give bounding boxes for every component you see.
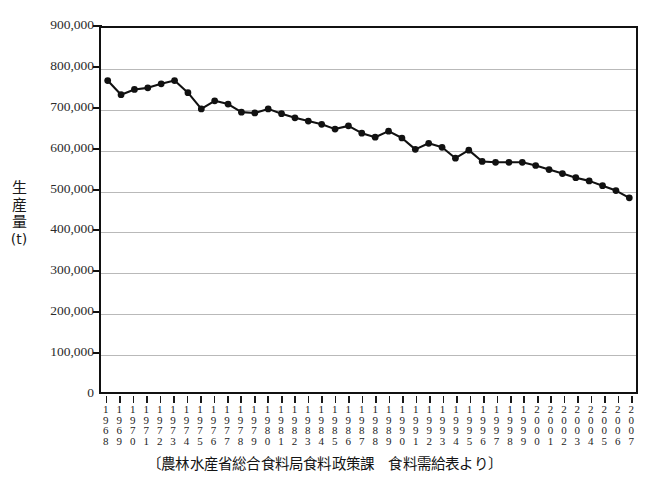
data-point-marker [519,159,526,166]
series-line [101,28,636,392]
x-axis-tick-label: 1998 [503,404,517,446]
x-axis-tick-mark [631,396,633,403]
x-axis-tick-label: 2006 [611,404,625,446]
x-axis-tick-mark [200,396,202,403]
x-axis-tick-mark [470,396,472,403]
x-axis-tick-label: 1997 [490,404,504,446]
x-axis-tick-mark [119,396,121,403]
data-point-marker [506,159,513,166]
x-axis-tick-mark [618,396,620,403]
data-point-marker [572,174,579,181]
x-axis-tick-label: 1992 [422,404,436,446]
data-point-marker [385,128,392,135]
data-point-marker [452,155,459,162]
data-point-marker [332,126,339,133]
y-axis-tick-label: 800,000 [22,58,94,74]
x-axis-tick-mark [362,396,364,403]
x-axis-tick-mark [389,396,391,403]
x-axis-tick-label: 1989 [382,404,396,446]
x-axis-tick-mark [510,396,512,403]
x-axis-tick-label: 2005 [597,404,611,446]
chart-page: 生 産 量 (t) 900,000800,000700,000600,00050… [0,0,649,478]
data-point-marker [626,195,633,202]
data-point-marker [265,106,272,113]
x-axis-tick-label: 1984 [314,404,328,446]
x-axis-tick-label: 1996 [476,404,490,446]
x-axis-tick-label: 1978 [233,404,247,446]
x-axis-tick-mark [550,396,552,403]
x-axis-tick-label: 1991 [409,404,423,446]
x-axis-tick-mark [523,396,525,403]
x-axis-tick-label: 1988 [368,404,382,446]
data-point-marker [372,134,379,141]
x-axis-tick-mark [375,396,377,403]
x-axis-tick-mark [308,396,310,403]
x-axis-tick-mark [402,396,404,403]
data-point-marker [532,162,539,169]
x-axis-tick-mark [591,396,593,403]
data-point-marker [171,77,178,84]
x-axis-tick-label: 2004 [584,404,598,446]
x-axis-tick-label: 2002 [557,404,571,446]
y-axis-tick-label: 400,000 [22,221,94,237]
x-axis-tick-label: 1995 [463,404,477,446]
data-point-marker [439,144,446,151]
data-point-marker [292,114,299,121]
x-axis-tick-label: 1973 [166,404,180,446]
x-axis-tick-mark [483,396,485,403]
data-point-marker [278,110,285,117]
x-axis-tick-label: 1968 [99,404,113,446]
data-point-marker [599,182,606,189]
x-axis-tick-mark [564,396,566,403]
data-point-marker [412,146,419,153]
data-point-marker [492,159,499,166]
x-axis-tick-label: 2007 [624,404,638,446]
x-axis-tick-label: 1987 [355,404,369,446]
x-axis-tick-mark [133,396,135,403]
x-axis-tick-label: 1971 [139,404,153,446]
data-point-marker [345,123,352,130]
data-point-marker [425,140,432,147]
y-axis-tick-label: 700,000 [22,99,94,115]
data-point-marker [211,97,218,104]
x-axis-tick-label: 1980 [260,404,274,446]
x-axis-tick-mark [227,396,229,403]
x-axis-tick-mark [240,396,242,403]
x-axis-tick-mark [348,396,350,403]
x-axis-tick-mark [281,396,283,403]
x-axis-tick-mark [537,396,539,403]
source-caption: 〔農林水産省総合食料局食料政策課 食料需給表より〕 [0,452,649,473]
x-axis-tick-mark [456,396,458,403]
x-axis-tick-mark [214,396,216,403]
x-axis-tick-label: 1990 [395,404,409,446]
x-axis-tick-mark [294,396,296,403]
x-axis-tick-mark [416,396,418,403]
data-point-marker [305,118,312,125]
x-axis-tick-label: 1970 [126,404,140,446]
x-axis-tick-label: 2000 [530,404,544,446]
data-point-marker [399,135,406,142]
x-axis-tick-label: 1982 [287,404,301,446]
x-axis-tick-mark [335,396,337,403]
data-point-marker [465,147,472,154]
x-axis-tick-label: 1994 [449,404,463,446]
x-axis-tick-mark [497,396,499,403]
data-point-marker [586,178,593,185]
x-axis-tick-mark [146,396,148,403]
y-axis-tick-label: 100,000 [22,344,94,360]
data-point-marker [238,109,245,116]
x-axis-tick-label: 2001 [543,404,557,446]
x-axis-tick-label: 1975 [193,404,207,446]
x-axis-tick-label: 1985 [328,404,342,446]
data-point-marker [118,91,125,98]
y-axis-tick-label: 600,000 [22,140,94,156]
x-axis-tick-label: 1979 [247,404,261,446]
data-point-marker [559,170,566,177]
data-point-marker [479,158,486,165]
x-axis-tick-label: 2003 [570,404,584,446]
x-axis-tick-label: 1972 [153,404,167,446]
x-axis-tick-mark [267,396,269,403]
data-point-marker [251,110,258,117]
x-axis-tick-label: 1986 [341,404,355,446]
y-axis-tick-label: 300,000 [22,262,94,278]
